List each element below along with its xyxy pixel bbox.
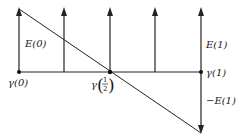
label-gamma-0: γ(0)	[8, 77, 28, 88]
label-e1: E(1)	[205, 39, 228, 50]
vector-field-diagram: E(0) E(1) γ(1) −E(1) γ(0) γ ( 1 2 )	[0, 0, 242, 139]
label-gamma-1: γ(1)	[206, 67, 226, 78]
label-neg-e1: −E(1)	[206, 95, 236, 106]
label-gamma-half: γ ( 1 2 )	[91, 75, 115, 95]
arrowhead-up-icon	[107, 7, 113, 16]
gamma-half-denominator: 2	[103, 85, 107, 93]
arrowhead-up-icon	[152, 7, 158, 16]
label-e0: E(0)	[24, 38, 47, 49]
point-gamma-0	[17, 70, 21, 74]
arrowhead-up-icon	[198, 7, 204, 16]
gamma-half-numerator: 1	[103, 76, 107, 84]
gamma-half-paren-close: )	[108, 75, 115, 95]
arrowhead-up-icon	[61, 7, 67, 16]
point-gamma-1	[199, 70, 203, 74]
arrowhead-up-icon	[16, 7, 22, 16]
point-gamma-half	[108, 70, 112, 74]
